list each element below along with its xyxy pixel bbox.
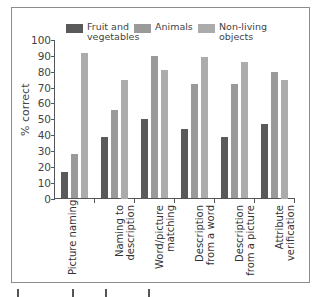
y-tick-label: 100 <box>27 35 51 45</box>
legend-label-non-living-objects: Non-living objects <box>219 22 279 42</box>
y-tick <box>51 56 55 57</box>
legend-label-line2: objects <box>219 32 279 42</box>
x-tick <box>254 198 255 203</box>
x-label-picture-naming: Picture naming <box>67 205 78 275</box>
y-tick <box>51 167 55 168</box>
y-tick-label: 50 <box>27 114 51 124</box>
bar <box>181 129 188 199</box>
y-tick-label: 70 <box>27 83 51 93</box>
bar <box>151 56 158 199</box>
y-tick <box>51 72 55 73</box>
x-label-line1: Word/picture <box>154 205 165 275</box>
bar <box>161 70 168 198</box>
x-tick <box>174 198 175 203</box>
y-tick <box>51 135 55 136</box>
bar <box>81 53 88 199</box>
x-tick <box>294 198 295 203</box>
x-label-attribute-verification: Attribute verification <box>274 205 296 275</box>
bar <box>281 80 288 199</box>
bar <box>141 119 148 198</box>
bar <box>111 110 118 199</box>
x-label-line2: from a picture <box>245 205 256 285</box>
bar <box>101 137 108 199</box>
x-label-description-from-word: Description from a word <box>194 205 216 275</box>
caption-fragment <box>72 289 74 297</box>
y-tick <box>51 40 55 41</box>
x-label-word-picture-matching: Word/picture matching <box>154 205 176 275</box>
x-tick <box>94 198 95 203</box>
bar <box>261 124 268 198</box>
y-tick-label: 40 <box>27 130 51 140</box>
legend-swatch-non-living-objects <box>198 24 215 33</box>
bar <box>231 84 238 198</box>
y-tick-label: 10 <box>27 178 51 188</box>
legend-swatch-animals <box>134 24 151 33</box>
x-label-naming-to-description: Naming to description <box>114 205 136 275</box>
x-label-line1: Description <box>194 205 205 275</box>
x-label-line1: Naming to <box>114 205 125 275</box>
caption-fragment <box>105 289 107 297</box>
x-label-line1: Description <box>234 205 245 285</box>
y-tick-label: 0 <box>27 194 51 204</box>
legend-swatch-fruit-vegetables <box>66 24 83 33</box>
x-label-line2: description <box>125 205 136 275</box>
y-tick-label: 90 <box>27 51 51 61</box>
bar <box>271 72 278 199</box>
x-label-line1: Attribute <box>274 205 285 275</box>
bar <box>241 62 248 198</box>
y-tick <box>51 88 55 89</box>
x-tick <box>134 198 135 203</box>
y-tick <box>51 151 55 152</box>
x-label-line2: verification <box>285 205 296 275</box>
bar <box>191 84 198 198</box>
y-tick <box>51 183 55 184</box>
y-tick-label: 60 <box>27 98 51 108</box>
caption-fragment <box>17 289 19 297</box>
bar <box>201 57 208 198</box>
caption-fragment <box>148 289 150 297</box>
y-tick <box>51 103 55 104</box>
bar <box>221 137 228 199</box>
y-tick <box>51 119 55 120</box>
x-label-line1: Picture naming <box>67 205 78 275</box>
legend-label-line2: vegetables <box>87 32 147 42</box>
x-label-line2: matching <box>165 205 176 275</box>
legend-item-non-living-objects: Non-living objects <box>198 22 279 42</box>
bar <box>121 80 128 199</box>
y-tick-label: 20 <box>27 162 51 172</box>
y-tick <box>51 199 55 200</box>
y-tick-label: 80 <box>27 67 51 77</box>
bar <box>61 172 68 199</box>
y-tick-label: 30 <box>27 146 51 156</box>
x-tick <box>214 198 215 203</box>
bar <box>71 154 78 198</box>
x-label-description-from-picture: Description from a picture <box>234 205 256 285</box>
x-label-line2: from a word <box>205 205 216 275</box>
